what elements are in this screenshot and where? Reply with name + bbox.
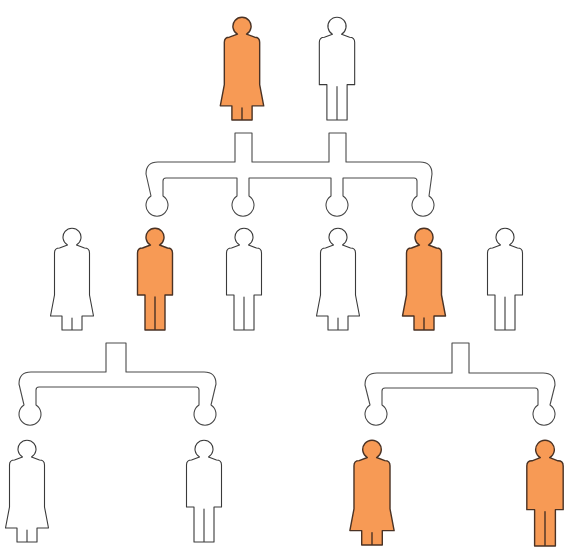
affected-male-figure-icon <box>527 440 563 546</box>
affected-female-figure-icon <box>350 440 394 545</box>
gen-2-group <box>51 228 523 330</box>
unaffected-male-figure-icon <box>187 440 222 542</box>
affected-female-figure-icon <box>220 17 263 120</box>
unaffected-female-figure-icon <box>317 228 360 330</box>
unaffected-female-figure-icon <box>6 440 49 542</box>
gen-1-group <box>220 17 354 120</box>
affected-male-figure-icon <box>138 228 173 330</box>
individuals-layer <box>0 0 571 557</box>
unaffected-male-figure-icon <box>319 17 354 120</box>
gen-3-group <box>6 440 564 546</box>
affected-female-figure-icon <box>403 228 446 330</box>
unaffected-female-figure-icon <box>51 228 94 330</box>
unaffected-male-figure-icon <box>227 228 262 330</box>
unaffected-male-figure-icon <box>488 228 523 330</box>
pedigree-diagram <box>0 0 571 557</box>
